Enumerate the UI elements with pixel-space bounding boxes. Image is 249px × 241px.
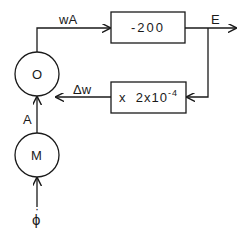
rate-box-label: x 2x10-4 (111, 91, 186, 104)
dw-label: Δw (73, 83, 91, 96)
o-node-label: O (32, 68, 42, 81)
gain-box-label: -200 (111, 21, 185, 34)
e-feedback-edge (187, 28, 208, 97)
phi-label: ϕ (32, 212, 40, 227)
a-label: A (23, 113, 32, 126)
wa-label: wA (59, 13, 77, 26)
rate-box-prefix: x 2x10 (119, 90, 168, 105)
rate-box-exponent: -4 (168, 88, 178, 98)
m-node-label: M (31, 149, 42, 162)
wa-edge (37, 28, 110, 52)
e-label: E (211, 13, 220, 26)
